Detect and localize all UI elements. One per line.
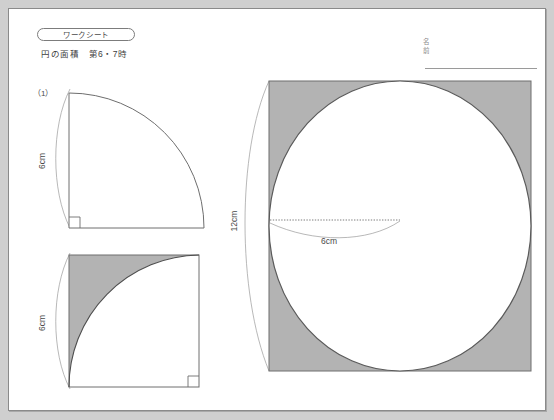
worksheet-badge-label: ワークシート xyxy=(63,29,109,40)
dimension-bracket-arc xyxy=(56,89,70,228)
name-field-label: 名 前 xyxy=(423,37,430,56)
figure-square-with-inscribed-circle: 6cm 12cm xyxy=(223,71,543,383)
dimension-label-side: 12cm xyxy=(229,211,239,232)
worksheet-badge: ワークシート xyxy=(37,28,135,41)
dimension-label-radius: 6cm xyxy=(37,153,47,169)
name-label-top: 名 xyxy=(423,37,430,46)
worksheet-page: ワークシート 円の面積 第6・7時 名 前 （1） 6cm xyxy=(8,8,546,411)
figure-square-minus-quarter: 6cm xyxy=(27,245,217,397)
dimension-label-side: 6cm xyxy=(37,315,47,331)
shaded-region xyxy=(69,255,199,387)
dimension-label-radius: 6cm xyxy=(321,236,337,246)
dimension-bracket-arc xyxy=(56,253,70,389)
inscribed-circle xyxy=(269,81,531,371)
right-angle-mark xyxy=(188,376,199,387)
dimension-bracket-arc xyxy=(245,81,269,371)
name-label-bottom: 前 xyxy=(423,46,430,55)
worksheet-subtitle: 円の面積 第6・7時 xyxy=(41,47,127,59)
quarter-circle-shape xyxy=(69,93,204,228)
name-write-line[interactable] xyxy=(425,68,537,69)
figure-quarter-circle: 6cm xyxy=(27,81,217,236)
